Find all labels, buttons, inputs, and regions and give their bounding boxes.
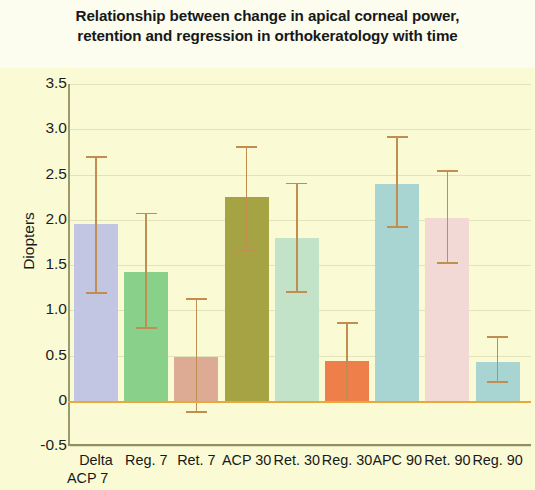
error-bar-cap-lower bbox=[487, 381, 508, 383]
error-bar-cap-lower bbox=[437, 262, 458, 264]
error-bar-cap-upper bbox=[136, 213, 157, 215]
error-bar-cap-upper bbox=[437, 170, 458, 172]
error-bar-cap-upper bbox=[487, 336, 508, 338]
error-bar-cap-lower bbox=[236, 250, 257, 252]
bar-series bbox=[0, 0, 535, 490]
error-bar-line bbox=[447, 170, 449, 262]
error-bar-line bbox=[95, 156, 97, 292]
error-bar-cap-upper bbox=[337, 322, 358, 324]
error-bar-cap-upper bbox=[186, 298, 207, 300]
error-bar-cap-upper bbox=[236, 146, 257, 148]
error-bar-line bbox=[497, 336, 499, 381]
error-bar-line bbox=[296, 183, 298, 292]
error-bar-cap-lower bbox=[136, 327, 157, 329]
error-bar-line bbox=[145, 213, 147, 327]
error-bar-cap-upper bbox=[86, 156, 107, 158]
x-axis-tick-label-line-1: Reg. 90 bbox=[461, 452, 535, 470]
error-bar-line bbox=[396, 136, 398, 226]
x-axis-tick-label: Reg. 90 bbox=[461, 452, 535, 470]
error-bar-line bbox=[346, 322, 348, 401]
error-bar-line bbox=[196, 298, 198, 411]
error-bar-cap-lower bbox=[86, 292, 107, 294]
error-bar-cap-lower bbox=[186, 411, 207, 413]
error-bar-line bbox=[246, 146, 248, 249]
error-bar-cap-lower bbox=[387, 226, 408, 228]
error-bar-cap-upper bbox=[286, 183, 307, 185]
chart-root: Relationship between change in apical co… bbox=[0, 0, 535, 490]
x-axis-tick-label-line-2: ACP 7 bbox=[59, 470, 133, 488]
error-bar-cap-upper bbox=[387, 136, 408, 138]
error-bar-cap-lower bbox=[286, 291, 307, 293]
zero-reference-line bbox=[68, 401, 531, 403]
